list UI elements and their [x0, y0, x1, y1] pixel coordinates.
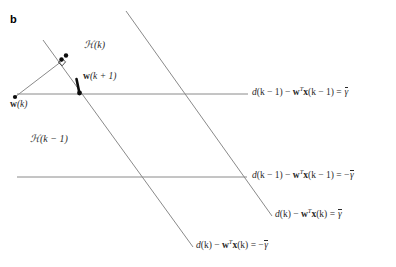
- region-label-hk-minus-1: ℋ(k − 1): [30, 134, 68, 144]
- constraint-label-d-k-lower: d(k) − wTx(k) = −γ: [196, 241, 268, 251]
- lbl-bot-arg1: (k − 1) −: [257, 170, 293, 180]
- lbl-dr-arg1: (k) −: [280, 209, 301, 219]
- point-label-wk1-arg: (k + 1): [90, 71, 116, 81]
- update-segment-step: [77, 79, 80, 91]
- point-wk1: [77, 91, 82, 96]
- lbl-top-rhs: γ: [344, 88, 349, 98]
- point-projection-foot: [59, 57, 63, 61]
- figure-panel-b: b ℋ(k) ℋ(k − 1) w(k) w(k + 1) d(k − 1) −…: [0, 0, 396, 267]
- constraint-label-d-km1-upper: d(k − 1) − wTx(k − 1) = γ: [252, 88, 349, 98]
- lbl-dr-rhs: γ: [337, 210, 342, 220]
- point-label-wk-arg: (k): [17, 99, 28, 109]
- panel-letter: b: [10, 14, 17, 25]
- point-label-wk-symbol: w: [10, 99, 17, 109]
- lbl-dl-arg1: (k) −: [201, 240, 222, 250]
- lbl-dl-rhs: γ: [264, 241, 269, 251]
- lbl-bot-w: w: [293, 170, 300, 180]
- lbl-bot-arg2: (k − 1) = −: [308, 170, 349, 180]
- point-label-wk1: w(k + 1): [83, 72, 116, 82]
- lbl-dr-w: w: [301, 209, 308, 219]
- lbl-dl-arg2: (k) = −: [237, 240, 264, 250]
- region-label-hk: ℋ(k): [84, 40, 105, 50]
- lbl-top-arg1: (k − 1) −: [257, 87, 293, 97]
- lbl-bot-rhs: γ: [349, 171, 354, 181]
- point-intermediate: [64, 53, 68, 57]
- point-label-wk: w(k): [10, 100, 27, 110]
- constraint-label-d-km1-lower: d(k − 1) − wTx(k − 1) = −γ: [252, 171, 354, 181]
- constraint-label-d-k-upper: d(k) − wTx(k) = γ: [275, 210, 342, 220]
- lbl-top-arg2: (k − 1) =: [308, 87, 344, 97]
- lbl-top-w: w: [293, 87, 300, 97]
- lbl-dl-w: w: [222, 240, 229, 250]
- lbl-dr-arg2: (k) =: [316, 209, 337, 219]
- update-segment-projection: [15, 61, 62, 97]
- point-label-wk1-symbol: w: [83, 71, 90, 81]
